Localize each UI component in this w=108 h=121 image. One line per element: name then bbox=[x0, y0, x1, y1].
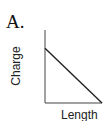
x-axis-label: Length bbox=[61, 108, 98, 121]
data-line bbox=[45, 48, 102, 103]
y-axis-label: Charge bbox=[9, 46, 23, 85]
